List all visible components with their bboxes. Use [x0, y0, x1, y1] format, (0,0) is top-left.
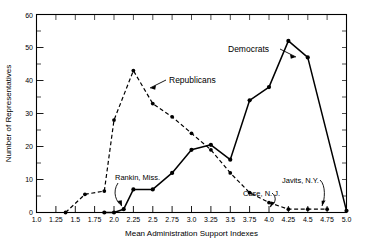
top-axis-ticks — [56, 15, 327, 21]
data-point — [325, 207, 329, 211]
data-point — [228, 158, 232, 162]
data-point — [267, 85, 271, 89]
data-point — [189, 148, 193, 152]
data-point — [209, 143, 213, 147]
data-point — [306, 55, 310, 59]
x-axis: 1.0 1.25 1.5 1.75 2.0 2.25 2.5 2.75 3.0 … — [32, 206, 352, 223]
data-point — [131, 69, 135, 73]
x-tick-label: 1.0 — [32, 216, 42, 223]
x-tick-label: 1.75 — [88, 216, 102, 223]
annotation-label-rankin: Rankin, Miss. — [115, 173, 160, 182]
data-point — [112, 118, 116, 122]
y-axis-title: Number of Representatives — [4, 65, 13, 162]
data-point — [209, 148, 213, 152]
x-tick-label: 2.25 — [127, 216, 141, 223]
x-tick-label: 3.0 — [187, 216, 197, 223]
series-label-republicans: Republicans — [169, 75, 216, 85]
data-point — [286, 39, 290, 43]
series-markers-republicans — [64, 69, 329, 215]
series-markers-democrats — [102, 39, 348, 215]
data-point — [102, 189, 106, 193]
data-point — [286, 207, 290, 211]
x-axis-title: Mean Administration Support Indexes — [125, 229, 258, 238]
x-tick-label: 3.25 — [204, 216, 218, 223]
y-axis: 0 10 20 30 40 50 60 — [25, 12, 43, 216]
data-point — [306, 207, 310, 211]
data-point — [248, 98, 252, 102]
data-point — [122, 207, 126, 211]
y-tick-label: 10 — [25, 176, 33, 183]
y-tick-label: 40 — [25, 77, 33, 84]
data-point — [344, 209, 348, 213]
data-point — [228, 171, 232, 175]
data-point — [170, 171, 174, 175]
annotation-label-javits: Javits, N.Y. — [282, 176, 319, 185]
series-label-democrats: Democrats — [228, 44, 269, 54]
x-tick-label: 4.75 — [320, 216, 334, 223]
y-tick-label: 30 — [25, 110, 33, 117]
leader-republicans — [150, 80, 166, 88]
y-tick-label: 50 — [25, 44, 33, 51]
data-point — [151, 102, 155, 106]
arrowhead-javits — [322, 201, 326, 206]
y-tick-label: 0 — [29, 209, 33, 216]
x-tick-label: 1.25 — [49, 216, 63, 223]
data-point — [64, 211, 68, 215]
data-point — [190, 131, 194, 135]
x-tick-label: 3.5 — [225, 216, 235, 223]
data-point — [267, 201, 271, 205]
x-tick-label: 2.0 — [109, 216, 119, 223]
x-tick-label: 2.75 — [165, 216, 179, 223]
x-tick-label: 5.0 — [342, 216, 352, 223]
x-tick-label: 3.75 — [243, 216, 257, 223]
data-point — [102, 210, 106, 214]
data-point — [170, 115, 174, 119]
data-point — [83, 192, 87, 196]
data-point — [112, 210, 116, 214]
x-tick-label: 1.5 — [70, 216, 80, 223]
right-axis-ticks — [342, 31, 347, 196]
series-line-democrats — [104, 41, 346, 213]
y-tick-label: 20 — [25, 143, 33, 150]
x-tick-label: 2.5 — [148, 216, 158, 223]
x-tick-label: 4.5 — [303, 216, 313, 223]
x-tick-label: 4.25 — [282, 216, 296, 223]
x-tick-label: 4.0 — [264, 216, 274, 223]
chart-figure: 0 10 20 30 40 50 60 — [0, 0, 365, 251]
y-tick-label: 60 — [25, 12, 33, 19]
data-point — [131, 187, 135, 191]
data-point — [151, 187, 155, 191]
